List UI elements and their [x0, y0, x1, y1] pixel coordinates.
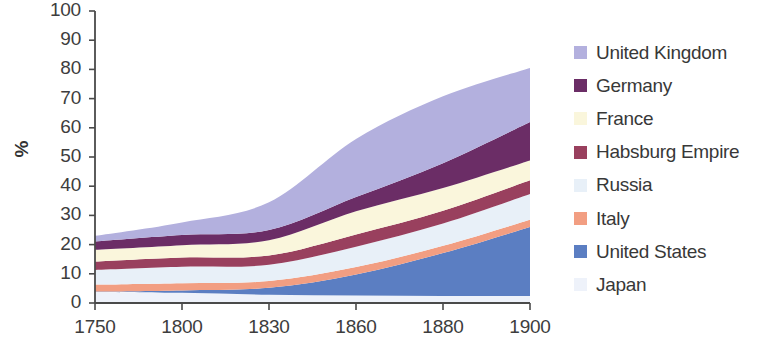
legend-swatch-icon: [574, 112, 587, 125]
y-tick-label: 60: [33, 116, 81, 138]
legend-item[interactable]: Italy: [574, 202, 763, 235]
y-tick-label: 20: [33, 233, 81, 255]
legend-label: United States: [596, 241, 706, 263]
legend-label: Russia: [596, 174, 652, 196]
x-tick-label: 1880: [408, 316, 478, 338]
legend-item[interactable]: Japan: [574, 268, 763, 301]
x-tick-label: 1900: [495, 316, 565, 338]
y-tick-label: 50: [33, 145, 81, 167]
y-tick-label: 100: [33, 0, 81, 21]
legend-swatch-icon: [574, 212, 587, 225]
legend-swatch-icon: [574, 245, 587, 258]
y-tick-label: 90: [33, 28, 81, 50]
legend-swatch-icon: [574, 278, 587, 291]
x-tick-label: 1800: [147, 316, 217, 338]
chart-figure: % 0102030405060708090100 175018001830186…: [0, 0, 763, 342]
legend-label: Italy: [596, 208, 629, 230]
y-tick-label: 10: [33, 262, 81, 284]
x-tick-label: 1860: [321, 316, 391, 338]
legend-label: Japan: [596, 274, 646, 296]
legend-label: Habsburg Empire: [596, 141, 739, 163]
legend-item[interactable]: Russia: [574, 169, 763, 202]
legend-item[interactable]: United Kingdom: [574, 36, 763, 69]
legend-swatch-icon: [574, 79, 587, 92]
legend-label: France: [596, 108, 653, 130]
chart-legend: United KingdomGermanyFranceHabsburg Empi…: [574, 36, 763, 302]
legend-item[interactable]: Habsburg Empire: [574, 136, 763, 169]
legend-label: United Kingdom: [596, 42, 727, 64]
y-tick-label: 30: [33, 203, 81, 225]
legend-swatch-icon: [574, 179, 587, 192]
legend-item[interactable]: France: [574, 102, 763, 135]
y-tick-label: 70: [33, 87, 81, 109]
legend-swatch-icon: [574, 46, 587, 59]
x-tick-label: 1830: [234, 316, 304, 338]
y-tick-label: 0: [33, 291, 81, 313]
x-tick-label: 1750: [60, 316, 130, 338]
y-tick-label: 80: [33, 57, 81, 79]
y-tick-label: 40: [33, 174, 81, 196]
legend-item[interactable]: United States: [574, 235, 763, 268]
legend-swatch-icon: [574, 146, 587, 159]
legend-item[interactable]: Germany: [574, 69, 763, 102]
legend-label: Germany: [596, 75, 672, 97]
